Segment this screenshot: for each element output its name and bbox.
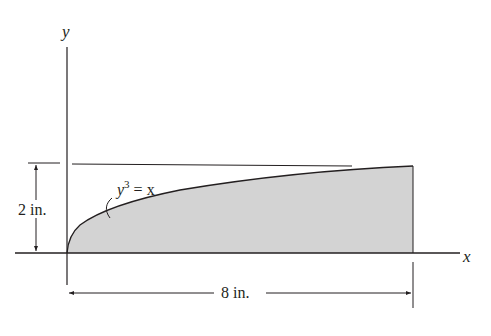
width-dimension-label: 8 in. bbox=[221, 284, 249, 301]
height-dimension-label: 2 in. bbox=[18, 201, 46, 218]
shaded-area bbox=[67, 166, 413, 253]
x-axis-label: x bbox=[462, 247, 471, 266]
area-diagram: y x y3 = x 2 in. 8 in. bbox=[0, 0, 491, 336]
top-reference-line bbox=[72, 164, 352, 166]
curve-equation-label: y3 = x bbox=[115, 178, 155, 199]
y-axis-label: y bbox=[60, 22, 70, 41]
equation-rest: = x bbox=[130, 181, 155, 198]
